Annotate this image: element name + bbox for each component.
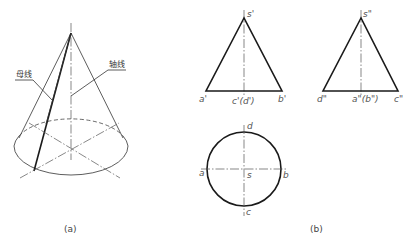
base-centerline-1 xyxy=(29,123,120,178)
top-b-label: b xyxy=(283,170,289,180)
cone-projection-diagram: 母线 轴线 (a) s' a' c'(d') b' s" d" a"(b") c… xyxy=(0,0,412,246)
generatrix-line-2 xyxy=(46,33,71,124)
front-apex-label: s' xyxy=(247,9,254,19)
front-left-label: a' xyxy=(199,94,207,104)
figure-a-cone-pictorial: 母线 轴线 (a) xyxy=(14,23,128,234)
top-c-label: c xyxy=(246,207,251,217)
generatrix-leader-line xyxy=(33,80,52,100)
front-view: s' a' c'(d') b' xyxy=(199,9,286,106)
base-ellipse-left-edge xyxy=(14,136,19,146)
top-a-label: a xyxy=(199,168,205,178)
side-view: s" d" a"(b") c" xyxy=(317,9,403,104)
top-d-label: d xyxy=(247,121,253,131)
top-s-label: s xyxy=(247,170,252,180)
figure-b-projections: s' a' c'(d') b' s" d" a"(b") c" d a s b … xyxy=(199,9,403,234)
generatrix-label: 母线 xyxy=(16,69,32,79)
side-center-label: a"(b") xyxy=(352,94,379,104)
front-right-label: b' xyxy=(278,94,286,104)
side-view-triangle xyxy=(323,18,398,91)
top-view: d a s b c xyxy=(199,121,289,217)
side-right-label: c" xyxy=(394,94,403,104)
figure-b-caption: (b) xyxy=(310,224,323,234)
side-apex-label: s" xyxy=(363,9,372,19)
figure-a-caption: (a) xyxy=(64,224,77,234)
axis-label: 轴线 xyxy=(109,59,125,69)
side-left-label: d" xyxy=(317,94,327,104)
base-ellipse-right-edge xyxy=(123,136,128,146)
front-center-label: c'(d') xyxy=(232,96,255,106)
axis-leader-line xyxy=(71,70,108,96)
cone-contour-right xyxy=(71,33,123,138)
